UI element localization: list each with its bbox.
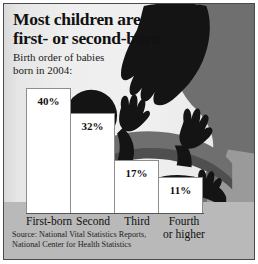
bar-value-label: 11%	[159, 184, 202, 196]
subheadline-block: Birth order of babies born in 2004:	[13, 51, 163, 76]
source-credit: Source: National Vital Statistics Report…	[12, 230, 202, 250]
subheadline-line-2: born in 2004:	[13, 64, 163, 77]
infographic-panel: Most children are first- or second-born …	[0, 0, 258, 264]
bar-value-label: 40%	[27, 95, 70, 107]
category-label-second: Second	[68, 215, 118, 228]
headline-line-1: Most children are	[13, 10, 163, 29]
bar-value-label: 17%	[115, 167, 158, 179]
graphic-frame: Most children are first- or second-born …	[3, 3, 255, 260]
source-line-1: Source: National Vital Statistics Report…	[12, 230, 202, 240]
category-label-text-line1: Fourth	[158, 215, 210, 228]
bar-third: 17%	[114, 160, 159, 214]
bar-value-label: 32%	[71, 120, 114, 132]
bar-second: 32%	[70, 113, 115, 214]
bar-chart: 40% 32% 17% 11%	[26, 88, 204, 214]
category-label-text: Third	[114, 215, 160, 228]
category-label-third: Third	[114, 215, 160, 228]
chart-baseline	[26, 213, 204, 214]
headline-block: Most children are first- or second-born …	[13, 10, 163, 76]
headline-line-2: first- or second-born	[13, 29, 163, 48]
bar-fourth-or-higher: 11%	[158, 177, 203, 214]
source-line-2: National Center for Health Statistics	[12, 240, 202, 250]
bar-first-born: 40%	[26, 88, 71, 214]
subheadline-line-1: Birth order of babies	[13, 51, 163, 64]
category-label-text: Second	[68, 215, 118, 228]
